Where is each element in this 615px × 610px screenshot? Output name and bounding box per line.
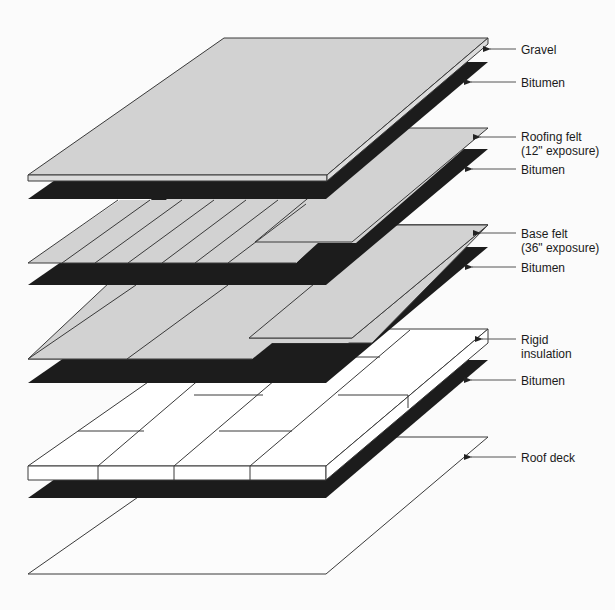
label-bitumen-3: Bitumen (521, 261, 565, 275)
label-gravel: Gravel (521, 43, 556, 57)
label-bitumen-4: Bitumen (521, 374, 565, 388)
label-bitumen-2: Bitumen (521, 163, 565, 177)
label-bitumen-1: Bitumen (521, 76, 565, 90)
label-rigid-insulation: Rigid insulation (521, 333, 572, 361)
label-roof-deck: Roof deck (521, 451, 575, 465)
roof-layers-diagram (0, 0, 615, 610)
label-roofing-felt: Roofing felt (12" exposure) (521, 130, 599, 158)
label-base-felt: Base felt (36" exposure) (521, 227, 599, 255)
